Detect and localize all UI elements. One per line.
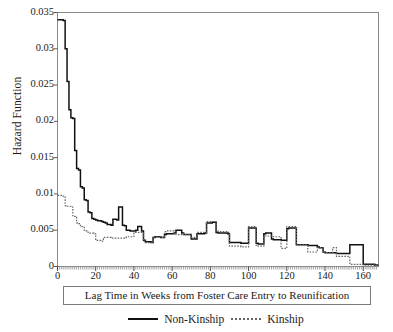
series-line-non-kinship (58, 20, 379, 265)
legend-label-non-kinship: Non-Kinship (164, 313, 224, 325)
plot-canvas (0, 0, 393, 332)
chart-legend: Non-Kinship Kinship (63, 313, 369, 325)
series-line-kinship (58, 195, 379, 265)
hazard-function-figure: Hazard Function 00.0050.010.0150.020.025… (0, 0, 393, 332)
legend-swatch-solid-icon (128, 318, 158, 320)
legend-item-non-kinship: Non-Kinship (128, 313, 224, 325)
legend-swatch-dashed-icon (231, 318, 261, 320)
legend-label-kinship: Kinship (267, 313, 303, 325)
x-axis-label-box: Lag Time in Weeks from Foster Care Entry… (63, 286, 371, 305)
legend-item-kinship: Kinship (231, 313, 303, 325)
